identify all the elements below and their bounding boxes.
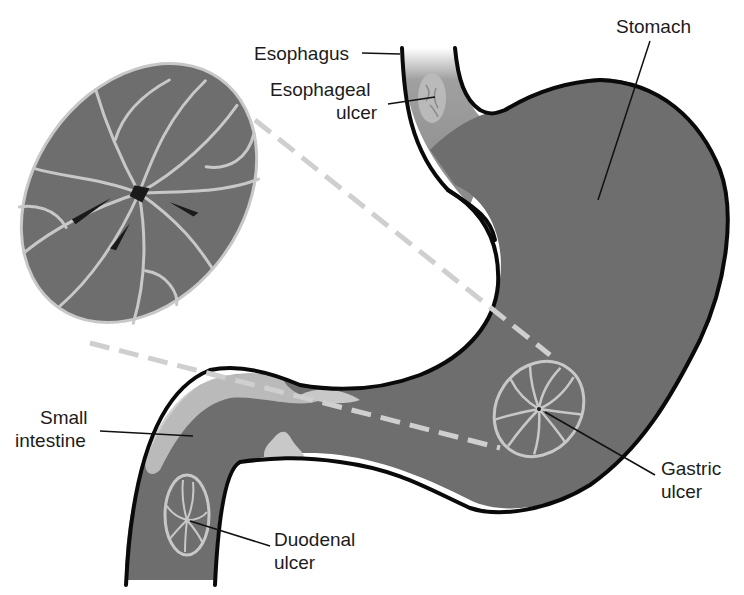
ulcer-diagram: Esophagus Esophageal ulcer Stomach Small… — [0, 0, 744, 595]
label-small-intestine-line1: Small — [40, 407, 88, 428]
duodenal-ulcer — [165, 475, 209, 555]
label-small-intestine-line2: intestine — [15, 430, 86, 451]
label-esophagus: Esophagus — [254, 43, 349, 64]
label-gastric-ulcer-line2: ulcer — [661, 481, 703, 502]
label-stomach: Stomach — [616, 16, 691, 37]
label-duodenal-ulcer-line1: Duodenal — [274, 529, 355, 550]
label-gastric-ulcer-line1: Gastric — [661, 458, 721, 479]
label-duodenal-ulcer-line2: ulcer — [274, 552, 316, 573]
esophagus-leader — [362, 53, 400, 54]
magnified-ulcer-view — [0, 18, 305, 368]
label-esophageal-ulcer-line2: ulcer — [336, 102, 378, 123]
label-esophageal-ulcer-line1: Esophageal — [270, 79, 370, 100]
